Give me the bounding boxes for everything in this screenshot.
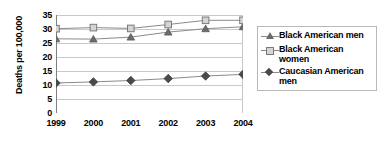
data-point-diamond <box>164 74 172 82</box>
x-tick-label: 1999 <box>36 118 76 128</box>
legend-item-label: Black American men <box>279 30 364 40</box>
legend-item-label: Black American women <box>279 44 372 64</box>
y-tick-label: 25 <box>32 39 52 48</box>
x-tick-label: 2001 <box>111 118 151 128</box>
data-point-square <box>128 25 135 32</box>
plot-svg <box>56 15 243 113</box>
square-marker-icon <box>261 45 279 56</box>
series-line <box>56 74 243 83</box>
chart-legend: Black American menBlack American womenCa… <box>257 26 377 91</box>
data-point-diamond <box>127 76 135 84</box>
data-point-square <box>56 25 59 32</box>
y-tick-label: 15 <box>32 67 52 76</box>
legend-item-label: Caucasian American men <box>279 66 372 86</box>
triangle-marker-icon <box>261 31 279 42</box>
series-line <box>56 27 243 39</box>
legend-item[interactable]: Black American women <box>261 44 372 64</box>
series-diamond <box>56 70 243 87</box>
y-axis-title: Deaths per 100,000 <box>14 0 24 110</box>
legend-item[interactable]: Black American men <box>261 30 372 42</box>
data-point-square <box>202 17 209 24</box>
data-point-diamond <box>89 78 97 86</box>
x-tick-label: 2000 <box>73 118 113 128</box>
data-point-square <box>240 17 243 24</box>
y-tick-label: 35 <box>32 11 52 20</box>
data-point-square <box>165 21 172 28</box>
data-point-diamond <box>201 72 209 80</box>
line-chart: Deaths per 100,000 35302520151050 199920… <box>0 0 381 143</box>
data-point-triangle <box>239 23 243 30</box>
data-point-square <box>90 24 97 31</box>
plot-area <box>56 15 243 113</box>
x-axis-tick-labels: 199920002001200220032004 <box>56 118 243 134</box>
diamond-marker-icon <box>261 67 279 78</box>
y-tick-label: 5 <box>32 95 52 104</box>
x-tick-label: 2003 <box>186 118 226 128</box>
y-tick-label: 10 <box>32 81 52 90</box>
legend-item[interactable]: Caucasian American men <box>261 66 372 86</box>
y-tick-label: 20 <box>32 53 52 62</box>
y-tick-label: 30 <box>32 25 52 34</box>
series-line <box>56 20 243 28</box>
x-tick-label: 2004 <box>223 118 263 128</box>
y-tick-label: 0 <box>32 109 52 118</box>
x-tick-label: 2002 <box>148 118 188 128</box>
